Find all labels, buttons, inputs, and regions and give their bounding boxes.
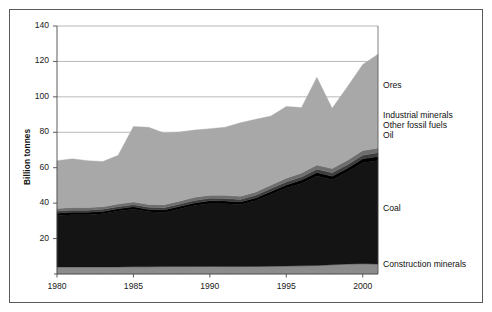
x-tick-label: 2000 (341, 281, 385, 291)
x-tick-label: 1985 (111, 281, 155, 291)
y-tick-label: 40 (13, 197, 49, 207)
series-label-coal: Coal (383, 203, 401, 213)
x-tick-label: 1990 (188, 281, 232, 291)
y-tick-label: 100 (13, 91, 49, 101)
y-axis-title: Billion tonnes (22, 129, 32, 185)
y-tick-label: 120 (13, 55, 49, 65)
y-tick-label: 140 (13, 20, 49, 30)
x-tick-label: 1980 (35, 281, 79, 291)
series-label-ores: Ores (383, 80, 402, 90)
series-label-construction-minerals: Construction minerals (383, 259, 466, 269)
y-tick-marks (53, 26, 57, 274)
series-label-industrial-minerals: Industrial minerals (383, 110, 453, 120)
x-tick-marks (57, 274, 363, 278)
y-tick-label: 20 (13, 233, 49, 243)
area-series-group (57, 54, 378, 274)
series-label-oil: Oil (383, 130, 394, 140)
figure-container: 20406080100120140 19801985199019952000 O… (0, 0, 492, 312)
x-tick-label: 1995 (264, 281, 308, 291)
series-label-other-fossil-fuels: Other fossil fuels (383, 120, 447, 130)
plot-area: 20406080100120140 19801985199019952000 O… (0, 0, 492, 312)
